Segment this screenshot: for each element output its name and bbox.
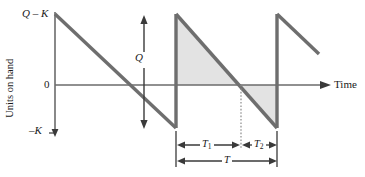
t1-subscript: 1: [208, 142, 212, 151]
t-total-dimension-label: T: [222, 155, 232, 166]
q-double-arrow: [140, 15, 147, 129]
x-axis-arrowhead: [320, 81, 331, 89]
inventory-sawtooth-figure: Q – K 0 –K Q Time Units on hand T1 T2 T: [0, 0, 365, 177]
y-axis-label-top: Q – K: [22, 8, 48, 19]
q-arrow-label: Q: [134, 52, 144, 63]
y-axis-title: Units on hand: [5, 57, 16, 119]
t2-dimension-label: T2: [252, 139, 266, 150]
y-axis-label-bottom: –K: [29, 125, 42, 136]
t2-subscript: 2: [260, 142, 264, 151]
x-axis-title: Time: [334, 79, 357, 90]
chart-canvas: [0, 0, 365, 177]
y-axis-label-zero: 0: [44, 79, 50, 90]
t1-dimension-label: T1: [200, 139, 214, 150]
